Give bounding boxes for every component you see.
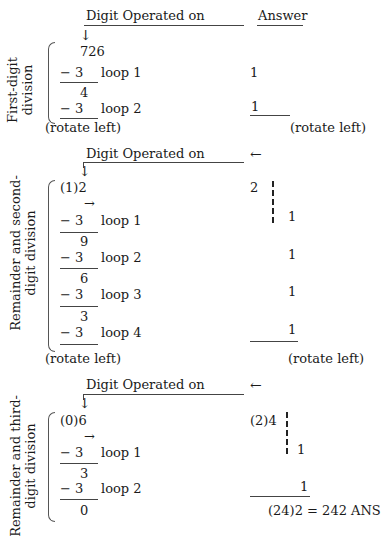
arrow-right-icon: → <box>84 430 95 443</box>
subtract-3: − 3 <box>60 446 83 459</box>
dividend: 726 <box>80 45 105 58</box>
arrow-down-icon: ↓ <box>79 164 91 178</box>
loop-label: loop 2 <box>101 251 142 264</box>
remainder: 9 <box>80 235 88 248</box>
rule <box>60 306 98 307</box>
brace <box>48 42 55 124</box>
dashed-divider <box>286 412 288 454</box>
arrow-right-icon: → <box>84 197 95 210</box>
subtract-3: − 3 <box>60 102 83 115</box>
digit-operated-header: Digit Operated on <box>86 147 205 160</box>
loop-label: loop 3 <box>101 288 142 301</box>
answer-digit: 1 <box>297 443 305 456</box>
subtract-3: − 3 <box>60 66 83 79</box>
arrow-down-icon: ↓ <box>79 396 91 410</box>
answer-digit: 1 <box>288 210 296 223</box>
answer-digit: 1 <box>288 285 296 298</box>
rule <box>60 232 98 233</box>
answer-digit: 2 <box>250 181 258 194</box>
brace <box>48 412 55 522</box>
arrow-left-icon: ← <box>250 147 262 161</box>
rule <box>60 268 98 269</box>
remainder: 6 <box>80 272 88 285</box>
rule <box>60 499 98 500</box>
side-label: Remainder and third- digit division <box>9 386 43 540</box>
subtract-3: − 3 <box>60 482 83 495</box>
side-label: First-digit division <box>6 31 40 149</box>
loop-label: loop 1 <box>101 66 142 79</box>
rule <box>60 82 98 83</box>
dividend: (0)6 <box>60 414 87 427</box>
dashed-divider <box>272 181 274 223</box>
remainder: 0 <box>80 504 88 517</box>
answer-underline <box>257 25 303 26</box>
answer-digit: 1 <box>250 66 258 79</box>
remainder: 3 <box>80 310 88 323</box>
side-label: Remainder and second- digit division <box>9 173 43 333</box>
rotate-left-answer-label: (rotate left) <box>288 352 364 365</box>
arrow-down-icon: ↓ <box>80 28 92 42</box>
remainder: 3 <box>80 467 88 480</box>
dividend: (1)2 <box>60 181 87 194</box>
digit-operated-header: Digit Operated on <box>86 9 205 22</box>
loop-label: loop 1 <box>101 446 142 459</box>
subtract-3: − 3 <box>60 214 83 227</box>
subtract-3: − 3 <box>60 288 83 301</box>
answer-digit: 1 <box>288 248 296 261</box>
answer-header: Answer <box>258 9 307 22</box>
loop-label: loop 2 <box>101 102 142 115</box>
loop-label: loop 4 <box>101 326 142 339</box>
header-line <box>84 394 244 395</box>
arrow-left-icon: ← <box>250 378 262 392</box>
answer-rule <box>250 115 290 116</box>
rotate-left-label: (rotate left) <box>45 121 121 134</box>
answer-rule <box>250 496 310 497</box>
answer-digit: 1 <box>288 323 296 336</box>
header-line <box>84 162 244 163</box>
rotate-left-label: (rotate left) <box>45 352 121 365</box>
rule <box>60 344 98 345</box>
loop-label: loop 1 <box>101 214 142 227</box>
answer-rule <box>250 341 298 342</box>
rule <box>60 463 98 464</box>
subtract-3: − 3 <box>60 251 83 264</box>
brace <box>48 180 55 352</box>
digit-operated-header: Digit Operated on <box>86 378 205 391</box>
header-line <box>84 25 244 26</box>
subtract-3: − 3 <box>60 326 83 339</box>
remainder: 4 <box>80 86 88 99</box>
answer-digit: 1 <box>300 480 308 493</box>
rule <box>60 118 98 119</box>
answer-digit: (2)4 <box>250 414 277 427</box>
answer-digit: 1 <box>251 100 259 113</box>
loop-label: loop 2 <box>101 482 142 495</box>
final-answer: (24)2 = 242 ANS <box>268 504 381 517</box>
rotate-left-answer-label: (rotate left) <box>290 121 366 134</box>
